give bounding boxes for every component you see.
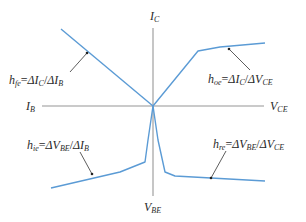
hre-dot xyxy=(210,177,213,180)
hoe-formula: hoe=ΔIC/ΔVCE xyxy=(208,72,273,87)
axis-label-right: VCE xyxy=(270,99,288,114)
axis-label-bottom: VBE xyxy=(144,200,161,215)
hfe-curve xyxy=(61,29,153,106)
hie-formula: hie=ΔVBE/ΔIB xyxy=(27,138,89,153)
hie-leader xyxy=(80,152,92,174)
axis-label-top: IC xyxy=(149,9,160,24)
hfe-dot xyxy=(86,52,89,55)
hoe-dot xyxy=(228,48,231,51)
hre-leader xyxy=(211,151,226,178)
hre-formula: hre=ΔVBE/ΔVCE xyxy=(213,137,284,152)
hfe-formula: hfe=ΔIC/ΔIB xyxy=(9,73,63,88)
h-parameter-diagram: IC VBE IB VCE hfe=ΔIC/ΔIB hoe=ΔIC/ΔVCE h… xyxy=(0,0,306,222)
axis-label-left: IB xyxy=(25,99,35,114)
hoe-leader xyxy=(229,49,250,70)
hie-dot xyxy=(91,173,94,176)
hfe-leader xyxy=(70,53,87,72)
